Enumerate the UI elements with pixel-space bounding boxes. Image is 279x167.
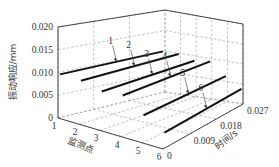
top-left-edge-line xyxy=(58,10,165,27)
label-layer: 00.0050.0100.0150.02012345600.0090.0180.… xyxy=(32,22,269,162)
y-tick-label: 0.009 xyxy=(194,136,216,146)
series-layer xyxy=(60,46,242,133)
x-tick-label: 4 xyxy=(115,140,120,150)
series-arrow-6 xyxy=(204,105,207,109)
y-tick-label: 0.027 xyxy=(247,106,269,116)
z-tick-label: 0.020 xyxy=(32,22,54,32)
wall-grid-line xyxy=(165,51,243,64)
series-arrow-5 xyxy=(186,90,189,94)
series-label-5: 5 xyxy=(180,68,185,78)
x-axis-label: 监测点 xyxy=(67,135,96,155)
series-label-2: 2 xyxy=(126,40,131,50)
z-tick-label: 0.010 xyxy=(32,68,54,78)
top-right-edge-line xyxy=(165,10,243,24)
floor-grid-line xyxy=(94,109,190,134)
series-label-4: 4 xyxy=(162,51,167,61)
chart-3d: 00.0050.0100.0150.02012345600.0090.0180.… xyxy=(0,0,279,167)
wall-grid-line xyxy=(165,72,243,85)
x-tick-label: 5 xyxy=(136,146,141,156)
x-tick-label: 3 xyxy=(94,133,99,143)
x-tick-label: 1 xyxy=(52,121,57,131)
x-tick-label: 6 xyxy=(157,152,162,162)
wall-grid-line xyxy=(165,31,243,45)
series-label-6: 6 xyxy=(198,83,203,93)
series-arrow-4 xyxy=(168,73,171,77)
z-tick-label: 0.005 xyxy=(32,90,54,100)
series-label-1: 1 xyxy=(108,36,113,46)
series-label-3: 3 xyxy=(144,49,149,59)
z-tick-label: 0.015 xyxy=(32,45,54,55)
y-tick-label: 0 xyxy=(167,151,172,161)
z-axis-label: 振动响应/mm xyxy=(7,44,18,101)
